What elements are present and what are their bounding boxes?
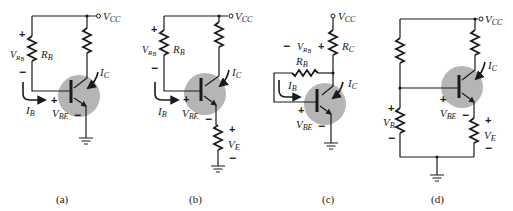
vrb-label: VRB (142, 44, 156, 57)
rb-resistor (160, 30, 168, 55)
vcc-terminal (229, 14, 233, 18)
vcc-label: VCC (235, 10, 253, 24)
ve-minus: − (229, 151, 236, 165)
caption-c: (c) (322, 193, 335, 206)
rc-resistor (471, 30, 479, 55)
caption-a: (a) (56, 193, 69, 206)
caption-d: (d) (431, 193, 444, 206)
ic-label: IC (99, 66, 110, 80)
rb-label: RB (295, 55, 308, 69)
vrb-label: VRB (10, 49, 24, 62)
vb-label: VB (383, 116, 395, 130)
vcc-terminal (331, 14, 335, 18)
panel-d: VCC IC + VB − + VBE − + VE − (383, 13, 503, 206)
bias-circuits-figure: VCC IC IB + VRB − RB + VBE − (a) (0, 0, 513, 211)
transistor-shade (184, 73, 226, 115)
ground-icon (211, 166, 225, 172)
vbe-label: VBE (440, 107, 457, 121)
r2-resistor (396, 108, 404, 133)
vbe-minus: − (74, 108, 81, 122)
vbe-plus: + (440, 93, 446, 105)
rc-resistor (83, 28, 91, 53)
vbe-label: VBE (296, 118, 313, 132)
vrb-minus: − (19, 65, 26, 79)
vcc-label: VCC (338, 10, 356, 24)
rc-resistor (329, 30, 337, 55)
rb-label: RB (172, 43, 185, 57)
ic-label: IC (231, 66, 242, 80)
vrb-minus: − (151, 61, 158, 75)
ve-plus: + (485, 114, 491, 126)
rc-resistor (215, 22, 223, 47)
r1-resistor (396, 38, 404, 63)
rb-resistor (292, 70, 318, 76)
vrb-plus: + (19, 28, 25, 40)
ib-label: IB (157, 105, 167, 119)
vcc-label: VCC (103, 10, 121, 24)
rc-label: RC (341, 40, 355, 54)
vrb-plus: + (151, 23, 157, 35)
ic-label: IC (487, 59, 498, 73)
transistor-shade (441, 66, 483, 108)
vb-minus: − (388, 131, 395, 145)
vb-plus: + (388, 102, 394, 114)
panel-a: VCC IC IB + VRB − RB + VBE − (a) (10, 10, 121, 206)
ground-icon (430, 175, 444, 181)
rb-label: RB (40, 48, 53, 62)
vrb-minus: − (283, 39, 290, 53)
ve-plus: + (229, 123, 235, 135)
vbe-minus: − (205, 112, 212, 126)
ground-icon (324, 143, 338, 149)
vbe-minus: − (462, 108, 469, 122)
vcc-label: VCC (485, 13, 503, 27)
vbe-plus: + (298, 104, 304, 116)
rb-resistor (28, 36, 36, 61)
re-resistor (214, 125, 222, 150)
ib-label: IB (287, 79, 297, 93)
caption-b: (b) (189, 193, 202, 206)
vcc-terminal (97, 14, 101, 18)
vrb-label: VRB (297, 41, 311, 54)
ground-icon (79, 138, 93, 144)
ib-label: IB (25, 104, 35, 118)
ve-label: VE (228, 138, 240, 152)
vbe-minus: − (318, 119, 325, 133)
panel-c: VCC IC IB RB − VRB + RC + VBE − (c) (274, 10, 358, 206)
vbe-plus: + (51, 94, 57, 106)
re-resistor (470, 118, 478, 143)
ve-minus: − (485, 141, 492, 155)
ic-label: IC (347, 77, 358, 91)
vcc-terminal (479, 17, 483, 21)
vbe-plus: + (183, 93, 189, 105)
vrb-plus: + (318, 40, 324, 52)
panel-b: VCC IC IB + VRB − RB + VBE − + VE − (b) (142, 10, 253, 206)
